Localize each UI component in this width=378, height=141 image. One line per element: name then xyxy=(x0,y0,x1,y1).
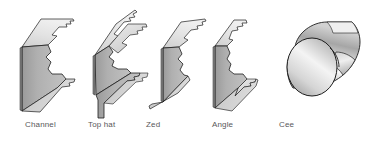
label-cee: Cee xyxy=(279,120,294,130)
profile-labels: Channel Top hat Zed Angle Cee xyxy=(0,120,378,136)
steel-profiles-figure: Channel Top hat Zed Angle Cee xyxy=(0,0,378,141)
label-channel: Channel xyxy=(25,120,56,130)
angle-profile-icon xyxy=(213,20,258,111)
label-angle: Angle xyxy=(212,120,233,130)
top-hat-profile-icon xyxy=(93,10,148,118)
channel-profile-icon xyxy=(20,19,75,112)
zed-profile-icon xyxy=(149,19,206,109)
cee-profile-icon xyxy=(287,22,360,96)
label-zed: Zed xyxy=(146,120,160,130)
label-top-hat: Top hat xyxy=(88,120,115,130)
